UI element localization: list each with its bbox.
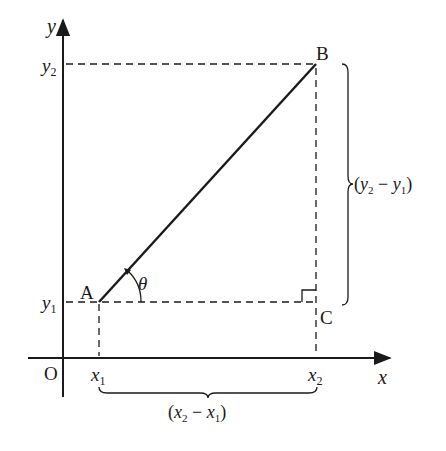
segment-ab [99,64,316,302]
horizontal-brace [99,387,317,398]
y-axis-label: y [45,15,56,38]
right-angle-marker [302,290,316,302]
x2-tick-label: x2 [307,364,322,388]
slope-diagram: y x O A B C θ y2 y1 x1 x2 (y2 − y1) (x2 … [0,0,446,451]
vertical-brace [342,64,353,305]
point-b-label: B [316,43,329,64]
theta-label: θ [138,273,147,294]
point-a-label: A [80,282,94,303]
horizontal-difference-label: (x2 − x1) [168,402,226,424]
point-c-label: C [320,307,333,328]
dashed-guides [66,64,316,356]
x1-tick-label: x1 [90,364,105,388]
origin-label: O [44,363,58,384]
vertical-difference-label: (y2 − y1) [354,174,412,196]
y2-tick-label: y2 [40,55,56,79]
y1-tick-label: y1 [40,292,56,316]
x-axis-label: x [377,366,387,388]
